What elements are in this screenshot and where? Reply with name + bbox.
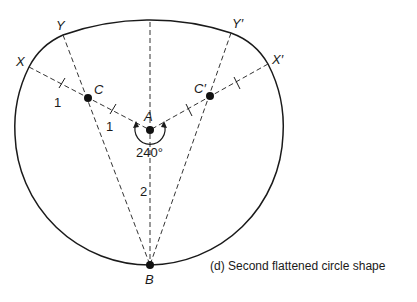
label-a: A <box>143 109 153 124</box>
label-x-prime: X′ <box>271 52 284 67</box>
label-x: X <box>15 54 26 69</box>
arrow-head-right <box>161 121 167 128</box>
measure-xc: 1 <box>54 95 61 110</box>
label-y-prime: Y′ <box>232 16 244 31</box>
flattened-circle-outline <box>15 20 283 265</box>
point-a <box>146 126 154 134</box>
point-c-prime <box>206 92 214 100</box>
figure-caption: (d) Second flattened circle shape <box>210 259 386 273</box>
measure-ab: 2 <box>140 184 147 199</box>
label-c: C <box>94 82 104 97</box>
measure-ca: 1 <box>106 119 113 134</box>
label-b: B <box>145 272 154 287</box>
angle-label: 240° <box>136 145 163 160</box>
point-b <box>146 261 154 269</box>
construction-lines <box>29 22 268 265</box>
label-c-prime: C′ <box>194 81 206 96</box>
flattened-circle-diagram: A B C C′ X X′ Y Y′ 1 1 2 240° (d) Second… <box>0 0 417 302</box>
label-y: Y <box>56 18 66 33</box>
point-c <box>84 94 92 102</box>
arrow-head-left <box>133 121 139 128</box>
